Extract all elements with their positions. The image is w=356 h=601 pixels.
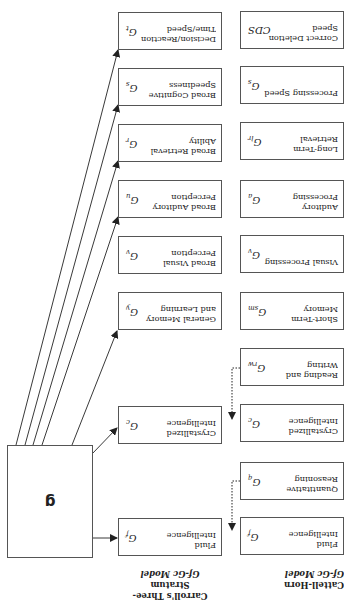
carroll-box-gv-label: Broad Visual Perception xyxy=(141,249,216,269)
cattell-horn-box-cds-label: Correct Deletion Speed xyxy=(263,24,338,44)
cattell-horn-box-gs-symbol: Gs xyxy=(248,78,260,92)
carroll-title-line2: Gf-Gc Model xyxy=(118,568,222,579)
carroll-title-line1: Carroll's Three-Stratum xyxy=(118,579,222,601)
cattell-horn-box-gq-symbol: Gq xyxy=(248,474,260,488)
carroll-box-gt-label: Decision/Reaction Time/Speed xyxy=(141,25,216,45)
cattell-horn-box-gsm: Short-Term MemoryGsm xyxy=(240,292,344,330)
cattell-horn-box-glr-symbol: Glr xyxy=(248,134,262,148)
cattell-horn-box-grw-content: Reading and WritingGrw xyxy=(241,349,343,385)
cattell-horn-box-gs-label: Processing Speed xyxy=(263,89,338,99)
cattell-horn-box-gf-label: Fluid Intelligence xyxy=(263,530,338,550)
carroll-box-gc-content: Crystallized IntelligenceGc xyxy=(119,407,221,443)
carroll-box-gc-symbol: Gc xyxy=(126,418,138,432)
cattell-horn-box-gs: Processing SpeedGs xyxy=(240,66,344,104)
cattell-horn-box-cds-symbol: CDS xyxy=(248,25,271,36)
carroll-box-gr: Broad Retrieval AbilityGr xyxy=(118,124,222,162)
carroll-box-gv-content: Broad Visual PerceptionGv xyxy=(119,237,221,273)
cattell-horn-box-gv-symbol: Gv xyxy=(248,247,260,261)
cattell-horn-title-line1: Cattell-Horn xyxy=(240,579,344,590)
g-factor-label: g xyxy=(45,493,56,511)
arrow-g-to-gt xyxy=(16,50,118,445)
cattell-horn-box-gsm-content: Short-Term MemoryGsm xyxy=(241,293,343,329)
carroll-box-gs-symbol: Gs xyxy=(126,80,138,94)
cattell-horn-box-ga-content: Auditory ProcessingGa xyxy=(241,181,343,217)
carroll-box-gv-symbol: Gv xyxy=(126,248,138,262)
carroll-box-gv: Broad Visual PerceptionGv xyxy=(118,236,222,274)
carroll-box-gr-content: Broad Retrieval AbilityGr xyxy=(119,125,221,161)
cattell-horn-box-gf-symbol: Gf xyxy=(248,529,259,543)
cattell-horn-box-grw-symbol: Grw xyxy=(248,360,265,374)
cattell-horn-box-gv-label: Visual Processing xyxy=(263,258,338,268)
cattell-horn-box-gf: Fluid IntelligenceGf xyxy=(240,517,344,555)
arrow-g-to-gu xyxy=(42,217,118,445)
carroll-box-gt: Decision/Reaction Time/SpeedGt xyxy=(118,12,222,50)
carroll-box-gy: General Memory and LearningGy xyxy=(118,292,222,330)
carroll-box-gt-content: Decision/Reaction Time/SpeedGt xyxy=(119,13,221,49)
carroll-box-gu-content: Broad Auditory PerceptionGu xyxy=(119,181,221,217)
carroll-box-gs: Broad Cognitive SpeedinessGs xyxy=(118,68,222,106)
cattell-horn-box-grw-label: Reading and Writing xyxy=(263,361,338,381)
carroll-box-gs-label: Broad Cognitive Speediness xyxy=(141,81,216,101)
g-factor-box: g xyxy=(7,445,93,558)
cattell-horn-box-ga-symbol: Ga xyxy=(248,192,260,206)
carroll-box-gu-symbol: Gu xyxy=(126,192,139,206)
carroll-box-gf-symbol: Gf xyxy=(126,530,137,544)
cattell-horn-box-gc: Crystallized IntelligenceGc xyxy=(240,404,344,442)
carroll-box-gs-content: Broad Cognitive SpeedinessGs xyxy=(119,69,221,105)
cattell-horn-box-gq: Quantitative ReasoningGq xyxy=(240,462,344,500)
carroll-box-gc: Crystallized IntelligenceGc xyxy=(118,406,222,444)
dotted-gq-to-gf xyxy=(232,481,240,530)
cattell-horn-box-gc-symbol: Gc xyxy=(248,416,260,430)
cattell-horn-box-cds-content: Correct Deletion SpeedCDS xyxy=(241,12,343,48)
cattell-horn-box-gsm-label: Short-Term Memory xyxy=(263,305,338,325)
cattell-horn-box-gc-content: Crystallized IntelligenceGc xyxy=(241,405,343,441)
cattell-horn-box-gf-content: Fluid IntelligenceGf xyxy=(241,518,343,554)
cattell-horn-box-ga-label: Auditory Processing xyxy=(263,193,338,213)
carroll-box-gf-content: Fluid IntelligenceGf xyxy=(119,519,221,555)
carroll-box-gu-label: Broad Auditory Perception xyxy=(141,193,216,213)
carroll-box-gy-content: General Memory and LearningGy xyxy=(119,293,221,329)
cattell-horn-box-gs-content: Processing SpeedGs xyxy=(241,67,343,103)
cattell-horn-title-line2: Gf-Gc Model xyxy=(240,568,344,579)
cattell-horn-box-gq-content: Quantitative ReasoningGq xyxy=(241,463,343,499)
arrow-g-to-gr xyxy=(33,161,118,445)
cattell-horn-box-grw: Reading and WritingGrw xyxy=(240,348,344,386)
carroll-box-gr-label: Broad Retrieval Ability xyxy=(141,137,216,157)
carroll-box-gt-symbol: Gt xyxy=(126,24,137,38)
carroll-box-gf-label: Fluid Intelligence xyxy=(141,531,216,551)
carroll-box-gy-symbol: Gy xyxy=(126,304,138,318)
carroll-box-gf: Fluid IntelligenceGf xyxy=(118,518,222,556)
carroll-model-title: Carroll's Three-Stratum Gf-Gc Model xyxy=(118,568,222,601)
arrow-g-to-gs xyxy=(25,105,118,445)
carroll-box-gu: Broad Auditory PerceptionGu xyxy=(118,180,222,218)
cattell-horn-box-gq-label: Quantitative Reasoning xyxy=(263,475,338,495)
carroll-box-gy-label: General Memory and Learning xyxy=(141,305,216,325)
cattell-horn-box-ga: Auditory ProcessingGa xyxy=(240,180,344,218)
carroll-box-gr-symbol: Gr xyxy=(126,136,137,150)
cattell-horn-box-gsm-symbol: Gsm xyxy=(248,304,266,318)
cattell-horn-box-glr: Long-Term RetrievalGlr xyxy=(240,122,344,160)
carroll-box-gc-label: Crystallized Intelligence xyxy=(141,419,216,439)
cattell-horn-box-glr-content: Long-Term RetrievalGlr xyxy=(241,123,343,159)
arrow-g-to-gc xyxy=(92,428,117,454)
dotted-grw-to-gc xyxy=(232,368,240,419)
cattell-horn-box-gv-content: Visual ProcessingGv xyxy=(241,236,343,272)
cattell-horn-box-gc-label: Crystallized Intelligence xyxy=(263,417,338,437)
cattell-horn-box-gv: Visual ProcessingGv xyxy=(240,235,344,273)
cattell-horn-model-title: Cattell-Horn Gf-Gc Model xyxy=(240,568,344,590)
cattell-horn-box-glr-label: Long-Term Retrieval xyxy=(263,135,338,155)
cattell-horn-box-cds: Correct Deletion SpeedCDS xyxy=(240,11,344,49)
arrow-g-to-gy xyxy=(72,331,117,445)
